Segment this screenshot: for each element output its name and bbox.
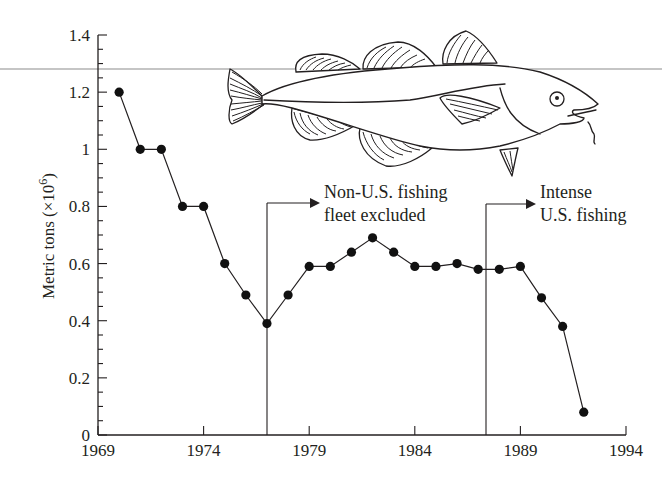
x-tick-label: 1974 [187, 441, 222, 460]
data-point [579, 408, 588, 417]
y-tick-label: 1.4 [69, 26, 91, 45]
data-point [305, 262, 314, 271]
data-point [410, 262, 419, 271]
data-point [241, 290, 250, 299]
data-point [262, 319, 271, 328]
data-point [452, 259, 461, 268]
data-point [178, 202, 187, 211]
y-tick-label: 0.8 [69, 197, 90, 216]
data-point [115, 88, 124, 97]
y-tick-label: 0.2 [69, 369, 90, 388]
cod-catch-chart: 00.20.40.60.811.21.4 1969197419791984198… [0, 0, 662, 488]
arrow-right-icon [526, 199, 536, 209]
data-point [326, 262, 335, 271]
data-point [474, 265, 483, 274]
data-point [220, 259, 229, 268]
annotation-non-us-fleet-excluded: Non-U.S. fishing fleet excluded [267, 182, 448, 435]
data-point [136, 145, 145, 154]
annotation-text-line-2: U.S. fishing [540, 205, 627, 225]
annotation-text-line-2: fleet excluded [324, 205, 425, 225]
annotation-text-line-1: Intense [540, 182, 592, 202]
data-point [347, 248, 356, 257]
x-tick-label: 1969 [81, 441, 115, 460]
y-tick-label: 0.6 [69, 255, 90, 274]
data-point [389, 248, 398, 257]
x-tick-label: 1984 [398, 441, 433, 460]
data-point [199, 202, 208, 211]
arrow-right-icon [310, 198, 320, 208]
data-point [495, 265, 504, 274]
y-tick-label: 1.2 [69, 83, 90, 102]
annotation-text-line-1: Non-U.S. fishing [324, 182, 448, 202]
cod-fish-icon [228, 31, 598, 176]
data-point [368, 233, 377, 242]
x-tick-label: 1979 [292, 441, 326, 460]
data-point [283, 290, 292, 299]
data-point [431, 262, 440, 271]
y-tick-label: 1 [82, 140, 91, 159]
y-tick-label: 0.4 [69, 312, 91, 331]
annotation-intense-us-fishing: Intense U.S. fishing [486, 182, 627, 435]
data-point [516, 262, 525, 271]
x-axis: 196919741979198419891994 [81, 426, 644, 460]
data-point [157, 145, 166, 154]
y-axis-title: Metric tons (×106) [36, 173, 58, 299]
data-point [558, 322, 567, 331]
y-axis: 00.20.40.60.811.21.4 [69, 26, 107, 445]
data-point [537, 293, 546, 302]
x-tick-label: 1989 [503, 441, 537, 460]
x-tick-label: 1994 [609, 441, 644, 460]
